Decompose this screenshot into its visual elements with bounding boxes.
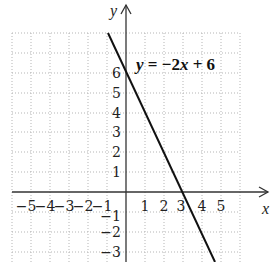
svg-text:6: 6 xyxy=(112,65,121,81)
x-axis-label: x xyxy=(261,200,269,217)
svg-text:−2: −2 xyxy=(100,224,121,240)
svg-text:5: 5 xyxy=(217,198,226,214)
svg-text:−4: −4 xyxy=(35,198,56,214)
svg-text:−2: −2 xyxy=(73,198,94,214)
y-axis-label: y xyxy=(108,2,118,20)
equation-label: y = −2x + 6 xyxy=(134,55,215,74)
svg-text:−1: −1 xyxy=(100,208,121,224)
svg-text:5: 5 xyxy=(112,85,121,101)
svg-text:−5: −5 xyxy=(16,198,37,214)
svg-text:1: 1 xyxy=(141,198,150,214)
svg-text:−3: −3 xyxy=(54,198,75,214)
svg-text:2: 2 xyxy=(160,198,169,214)
svg-text:3: 3 xyxy=(177,198,186,214)
coordinate-plane: x y −5 −4 −3 −2 −1 1 2 3 4 5 6 5 4 3 2 1… xyxy=(0,0,277,262)
y-tick-labels: 6 5 4 3 2 1 −1 −2 −3 xyxy=(100,65,121,260)
svg-text:4: 4 xyxy=(198,198,207,214)
axes xyxy=(12,5,268,262)
svg-text:3: 3 xyxy=(112,124,121,140)
svg-text:4: 4 xyxy=(112,105,121,121)
svg-text:−3: −3 xyxy=(100,244,121,260)
svg-text:2: 2 xyxy=(112,144,121,160)
svg-text:1: 1 xyxy=(112,164,121,180)
